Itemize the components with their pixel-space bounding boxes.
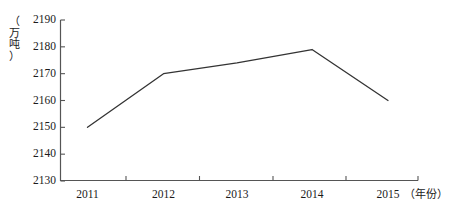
x-axis-tick-label: 2014 xyxy=(282,188,342,201)
x-axis-tick-label: 2011 xyxy=(58,188,118,201)
x-axis-tick-labels: 20112012201320142015 xyxy=(0,188,458,204)
x-axis-tick-label: 2012 xyxy=(134,188,194,201)
x-axis-tick-marks xyxy=(126,176,418,181)
x-axis-unit-label: （年份） xyxy=(404,188,448,201)
chart-plot-area xyxy=(0,0,458,218)
y-axis-tick-marks xyxy=(61,20,66,181)
data-series-line xyxy=(88,50,389,128)
x-axis-tick-label: 2013 xyxy=(207,188,267,201)
chart-screenshot: （ 万 吨 ） 2190218021702160215021402130 201… xyxy=(0,0,458,218)
